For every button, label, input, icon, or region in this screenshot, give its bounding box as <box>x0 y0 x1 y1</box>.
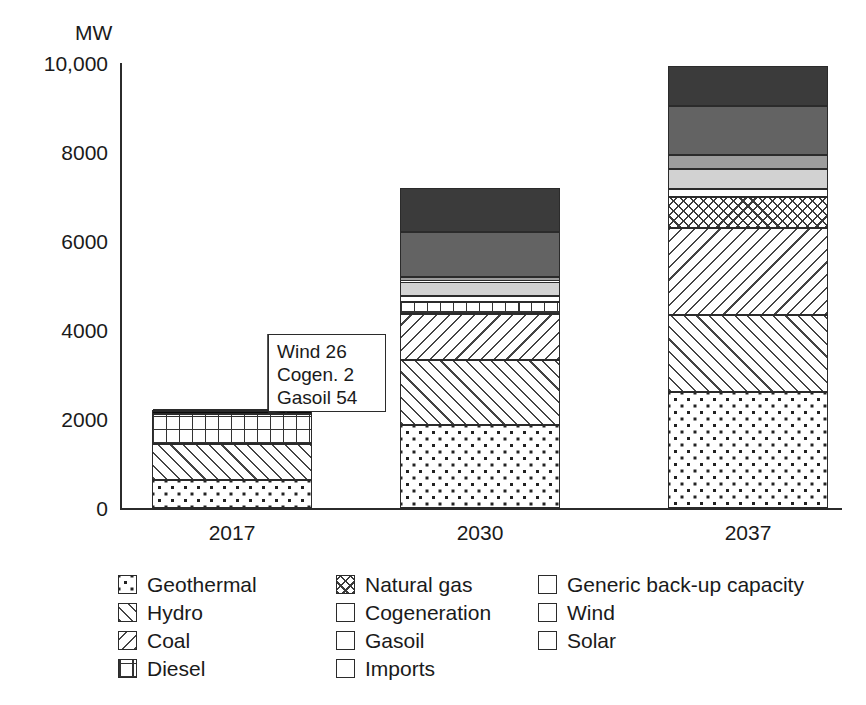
diesel-swatch-icon <box>118 659 137 678</box>
legend-item-wind[interactable]: Wind <box>538 598 804 626</box>
bar-2037[interactable] <box>668 66 828 508</box>
bar-segment-2017-geothermal[interactable] <box>153 480 311 508</box>
bar-segment-2030-geothermal[interactable] <box>401 425 559 508</box>
legend-label-gasoil: Gasoil <box>365 630 425 651</box>
bar-segment-2037-wind[interactable] <box>669 106 827 155</box>
coal-swatch-icon <box>118 631 137 650</box>
y-tick-label-10000: 10,000 <box>8 53 108 74</box>
legend-item-solar[interactable]: Solar <box>538 626 804 654</box>
bar-segment-2030-diesel[interactable] <box>401 302 559 314</box>
bar-2030[interactable] <box>400 188 560 508</box>
callout-box: Wind 26 Cogen. 2 Gasoil 54 <box>268 334 386 412</box>
legend-label-diesel: Diesel <box>147 658 205 679</box>
legend-label-geothermal: Geothermal <box>147 574 257 595</box>
legend-column-2: Natural gas Cogeneration Gasoil Imports <box>336 570 491 682</box>
bar-segment-2030-coal[interactable] <box>401 314 559 361</box>
legend-item-gasoil[interactable]: Gasoil <box>336 626 491 654</box>
legend-label-coal: Coal <box>147 630 190 651</box>
x-axis-line <box>120 508 842 510</box>
callout-line-gasoil: Gasoil 54 <box>277 386 385 409</box>
bar-segment-2030-cogeneration[interactable] <box>401 296 559 301</box>
bar-segment-2037-imports[interactable] <box>669 169 827 189</box>
solar-swatch-icon <box>538 631 557 650</box>
bar-segment-2030-solar[interactable] <box>401 188 559 232</box>
legend-item-diesel[interactable]: Diesel <box>118 654 257 682</box>
bar-segment-2037-solar[interactable] <box>669 66 827 106</box>
y-tick-label-8000: 8000 <box>8 142 108 163</box>
y-tick-label-4000: 4000 <box>8 320 108 341</box>
bar-segment-2030-generic-back-up-capacity[interactable] <box>401 277 559 282</box>
legend-column-1: Geothermal Hydro Coal Diesel <box>118 570 257 682</box>
x-tick-label-2017: 2017 <box>152 521 312 545</box>
callout-line-cogen: Cogen. 2 <box>277 363 385 386</box>
legend-label-generic-backup-capacity: Generic back-up capacity <box>567 574 804 595</box>
bar-segment-2037-coal[interactable] <box>669 228 827 315</box>
chart-canvas: MW 10,000 8000 6000 4000 2000 0 2017 203… <box>0 0 866 705</box>
y-tick-label-6000: 6000 <box>8 231 108 252</box>
legend-column-3: Generic back-up capacity Wind Solar <box>538 570 804 654</box>
bar-segment-2037-hydro[interactable] <box>669 315 827 392</box>
legend-label-natural-gas: Natural gas <box>365 574 472 595</box>
bar-segment-2037-geothermal[interactable] <box>669 392 827 508</box>
bar-2017[interactable] <box>152 410 312 508</box>
bar-segment-2030-hydro[interactable] <box>401 360 559 425</box>
geothermal-swatch-icon <box>118 575 137 594</box>
legend-item-generic-backup-capacity[interactable]: Generic back-up capacity <box>538 570 804 598</box>
bar-segment-2037-generic-back-up-capacity[interactable] <box>669 155 827 169</box>
legend-item-imports[interactable]: Imports <box>336 654 491 682</box>
y-axis-line <box>120 63 122 510</box>
y-axis-title: MW <box>75 22 112 43</box>
bar-segment-2017-diesel[interactable] <box>153 414 311 444</box>
generic-backup-capacity-swatch-icon <box>538 575 557 594</box>
imports-swatch-icon <box>336 659 355 678</box>
bar-segment-2017-hydro[interactable] <box>153 444 311 480</box>
legend-label-wind: Wind <box>567 602 615 623</box>
x-tick-label-2037: 2037 <box>668 521 828 545</box>
legend-item-coal[interactable]: Coal <box>118 626 257 654</box>
legend-item-cogeneration[interactable]: Cogeneration <box>336 598 491 626</box>
wind-swatch-icon <box>538 603 557 622</box>
legend-label-cogeneration: Cogeneration <box>365 602 491 623</box>
bar-segment-2037-cogeneration[interactable] <box>669 189 827 197</box>
bar-segment-2030-wind[interactable] <box>401 232 559 277</box>
gasoil-swatch-icon <box>336 631 355 650</box>
y-tick-label-0: 0 <box>8 498 108 519</box>
legend-item-hydro[interactable]: Hydro <box>118 598 257 626</box>
bar-segment-2030-imports[interactable] <box>401 282 559 297</box>
legend-label-solar: Solar <box>567 630 616 651</box>
bar-segment-2037-natural-gas[interactable] <box>669 197 827 228</box>
callout-line-wind: Wind 26 <box>277 340 385 363</box>
natural-gas-swatch-icon <box>336 575 355 594</box>
legend-item-natural-gas[interactable]: Natural gas <box>336 570 491 598</box>
hydro-swatch-icon <box>118 603 137 622</box>
legend-label-imports: Imports <box>365 658 435 679</box>
legend-item-geothermal[interactable]: Geothermal <box>118 570 257 598</box>
y-tick-label-2000: 2000 <box>8 409 108 430</box>
legend-label-hydro: Hydro <box>147 602 203 623</box>
x-tick-label-2030: 2030 <box>400 521 560 545</box>
cogeneration-swatch-icon <box>336 603 355 622</box>
